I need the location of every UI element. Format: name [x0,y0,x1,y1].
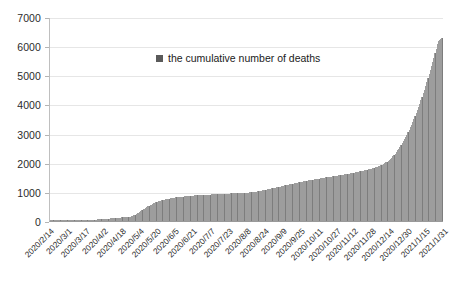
legend-label: the cumulative number of deaths [168,52,320,64]
bar [441,38,442,221]
y-tick-label: 7000 [17,12,41,24]
y-tick-label: 0 [35,216,41,228]
y-tick-mark [45,222,49,223]
x-axis: 2020/2/142020/3/12020/3/172020/4/22020/4… [49,226,443,284]
plot-area [49,18,443,222]
bar-series-cumulative-deaths [50,18,443,221]
chart-container: 01000200030004000500060007000 the cumula… [0,0,452,284]
y-tick-label: 5000 [17,70,41,82]
y-tick-label: 4000 [17,99,41,111]
y-tick-label: 6000 [17,41,41,53]
legend-swatch-icon [156,55,163,62]
y-tick-label: 3000 [17,129,41,141]
chart-legend: the cumulative number of deaths [156,52,320,64]
y-tick-label: 1000 [17,187,41,199]
y-tick-label: 2000 [17,158,41,170]
